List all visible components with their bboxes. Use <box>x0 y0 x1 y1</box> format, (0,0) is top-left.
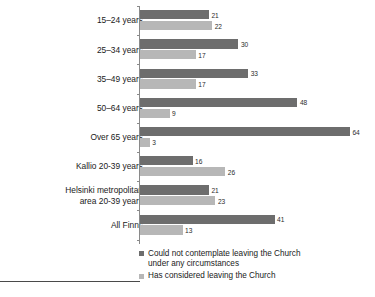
chart-category-row: All Finns 41 13 <box>0 210 375 239</box>
bar-value-label: 26 <box>225 168 235 175</box>
legend-item[interactable]: Could not contemplate leaving the Church… <box>139 249 375 268</box>
bar-value-label: 64 <box>350 128 360 135</box>
axis-tick <box>137 35 141 36</box>
bar-value-label: 41 <box>275 216 285 223</box>
bar-fill <box>140 79 196 88</box>
bar-fill <box>140 138 150 147</box>
bar-fill <box>140 196 215 205</box>
category-bar-group: 48 9 <box>140 94 375 123</box>
chart-plot-area: 15–24 years 21 22 25–34 years 30 <box>0 6 375 246</box>
bar-value-label: 33 <box>248 70 258 77</box>
axis-tick <box>137 240 141 241</box>
category-bar-group: 30 17 <box>140 35 375 64</box>
legend-swatch-icon <box>139 251 144 256</box>
bar-chart-figure: 15–24 years 21 22 25–34 years 30 <box>0 0 375 297</box>
legend-label: Could not contemplate leaving the Church… <box>148 249 300 268</box>
legend-label: Has considered leaving the Church <box>148 271 275 281</box>
bar-fill <box>140 21 212 30</box>
bar-value-label: 17 <box>196 80 206 87</box>
bar-value-label: 21 <box>209 11 219 18</box>
bar-fill <box>140 69 248 78</box>
axis-tick <box>137 123 141 124</box>
category-label: 15–24 years <box>23 6 143 35</box>
bar-value-label: 22 <box>212 22 222 29</box>
axis-tick <box>137 6 141 7</box>
bar-value-label: 13 <box>183 226 193 233</box>
category-label: 50–64 years <box>23 94 143 123</box>
bar-value-label: 17 <box>196 51 206 58</box>
legend-swatch-icon <box>139 274 144 279</box>
chart-category-row: 35–49 years 33 17 <box>0 64 375 93</box>
category-bar-group: 16 26 <box>140 152 375 181</box>
category-label: 35–49 years <box>23 64 143 93</box>
bar-value-label: 48 <box>297 99 307 106</box>
axis-tick <box>137 152 141 153</box>
bar-value-label: 30 <box>238 41 248 48</box>
category-label: Helsinki metropolitan area 20-39 years <box>23 181 143 210</box>
bar-fill <box>140 215 275 224</box>
bar-fill <box>140 10 209 19</box>
legend-item[interactable]: Has considered leaving the Church <box>139 271 375 281</box>
bar-value-label: 16 <box>193 157 203 164</box>
chart-category-row: Kallio 20-39 years 16 26 <box>0 152 375 181</box>
category-bar-group: 64 3 <box>140 123 375 152</box>
chart-legend: Could not contemplate leaving the Church… <box>139 249 375 284</box>
bar-fill <box>140 185 209 194</box>
axis-tick <box>137 64 141 65</box>
axis-tick <box>137 94 141 95</box>
bar-value-label: 9 <box>170 110 176 117</box>
bar-fill <box>140 98 297 107</box>
bar-fill <box>140 156 193 165</box>
bar-value-label: 23 <box>215 197 225 204</box>
chart-category-row: Over 65 years 64 3 <box>0 123 375 152</box>
category-bar-group: 41 13 <box>140 210 375 239</box>
footer-divider <box>0 281 140 282</box>
bar-fill <box>140 167 225 176</box>
chart-category-row: 50–64 years 48 9 <box>0 94 375 123</box>
category-bar-group: 33 17 <box>140 64 375 93</box>
axis-tick <box>137 210 141 211</box>
bar-fill <box>140 39 238 48</box>
category-bar-group: 21 23 <box>140 181 375 210</box>
bar-fill <box>140 225 183 234</box>
category-axis-line <box>139 6 140 244</box>
bar-fill <box>140 109 170 118</box>
chart-category-row: 25–34 years 30 17 <box>0 35 375 64</box>
bar-fill <box>140 50 196 59</box>
bar-value-label: 3 <box>150 139 156 146</box>
category-label: 25–34 years <box>23 35 143 64</box>
bar-value-label: 21 <box>209 187 219 194</box>
axis-tick <box>137 181 141 182</box>
chart-category-row: 15–24 years 21 22 <box>0 6 375 35</box>
category-label: Kallio 20-39 years <box>23 152 143 181</box>
category-label: All Finns <box>23 210 143 239</box>
category-bar-group: 21 22 <box>140 6 375 35</box>
category-label: Over 65 years <box>23 123 143 152</box>
bar-fill <box>140 127 350 136</box>
chart-category-row: Helsinki metropolitan area 20-39 years 2… <box>0 181 375 210</box>
